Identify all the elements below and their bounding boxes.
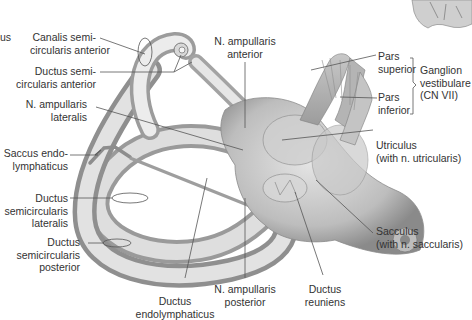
label-utriculus: Utriculus (with n. utricularis) [376, 139, 461, 164]
skull-thumbnail [412, 0, 472, 28]
label-ductus-semicircularis-posterior: Ductus semicircularis posterior [0, 236, 80, 274]
label-pars-inferior: Pars inferior [378, 91, 410, 116]
label-n-ampullaris-posterior: N. ampullaris posterior [205, 283, 285, 308]
label-n-ampullaris-lateralis: N. ampullaris lateralis [16, 98, 87, 123]
label-ductus-semicircularis-anterior: Ductus semi- circularis anterior [16, 65, 96, 90]
label-pars-superior: Pars superior [378, 50, 416, 75]
label-saccus-endolymphaticus: Saccus endo- lymphaticus [0, 147, 68, 172]
label-sacculus: Sacculus (with n. saccularis) [376, 225, 463, 250]
label-n-ampullaris-anterior: N. ampullaris anterior [205, 35, 285, 60]
cropped-label-fragment: us [0, 31, 11, 44]
label-ductus-semicircularis-lateralis: Ductus semicircularis lateralis [0, 192, 68, 230]
label-canalis-semicircularis-anterior: Canalis semi- circularis anterior [30, 31, 96, 56]
label-ductus-reuniens: Ductus reuniens [295, 283, 355, 308]
label-ganglion-vestibulare: Ganglion vestibulare (CN VII) [420, 64, 471, 102]
